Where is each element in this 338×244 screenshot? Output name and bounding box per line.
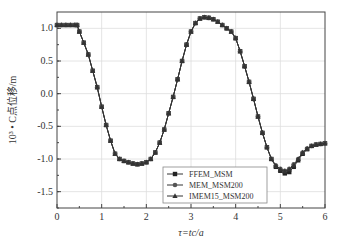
x-tick-label: 4 (233, 211, 238, 222)
y-tick-label: -1.0 (37, 153, 53, 164)
y-tick-label: -1.5 (37, 186, 53, 197)
x-axis-label: τ=tc/a (178, 227, 203, 238)
x-tick-label: 2 (144, 211, 149, 222)
legend: FFEM_MSMMEM_MSM200IMEM15_MSM200 (163, 167, 267, 203)
y-tick-label: 0.0 (41, 88, 54, 99)
y-tick-label: 0.5 (41, 55, 54, 66)
x-tick-label: 5 (278, 211, 283, 222)
x-tick-label: 6 (323, 211, 328, 222)
x-tick-label: 3 (189, 211, 194, 222)
y-axis-label: 10³ • C点位移/m (6, 75, 18, 144)
legend-entry: FFEM_MSM (189, 170, 233, 179)
line-chart: 01234561.00.50.0-0.5-1.0-1.5 τ=tc/a 10³ … (0, 0, 338, 244)
x-tick-label: 1 (99, 211, 104, 222)
y-tick-label: 1.0 (41, 22, 54, 33)
y-tick-label: -0.5 (37, 120, 53, 131)
legend-entry: MEM_MSM200 (189, 181, 243, 190)
legend-entry: IMEM15_MSM200 (189, 192, 253, 201)
x-tick-label: 0 (55, 211, 60, 222)
